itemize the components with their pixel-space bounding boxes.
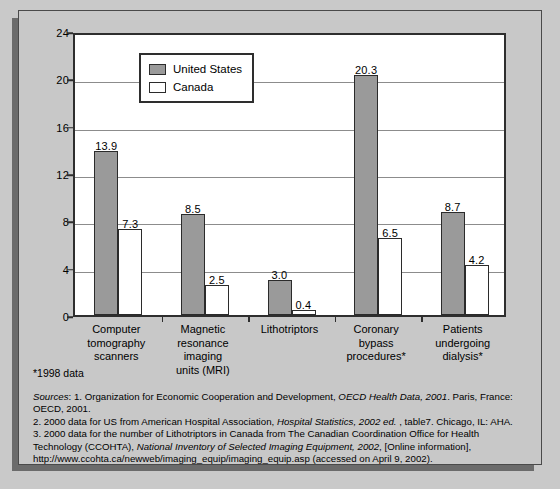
x-category-tick bbox=[421, 315, 423, 322]
source-3b: , table7. Chicago, IL: AHA. bbox=[396, 416, 512, 427]
bar-us bbox=[268, 280, 292, 316]
bar-value-label: 6.5 bbox=[382, 227, 398, 239]
source-5a: Technology (CCOHTA), bbox=[33, 441, 137, 452]
bar-chart: 04812162024 13.97.38.52.53.00.420.36.58.… bbox=[19, 11, 543, 341]
source-5-title: National Inventory of Selected Imaging E… bbox=[137, 441, 379, 452]
bar-value-label: 2.5 bbox=[209, 274, 225, 286]
source-1-title: OECD Health Data, 2001 bbox=[338, 391, 447, 402]
bar-us bbox=[94, 151, 118, 315]
bar-value-label: 7.3 bbox=[122, 218, 138, 230]
x-category-tick bbox=[335, 315, 337, 322]
notes-block: *1998 data Sources: 1. Organization for … bbox=[33, 367, 529, 465]
source-1b: . Paris, France: bbox=[447, 391, 513, 402]
legend-label: Canada bbox=[173, 81, 213, 93]
source-line-1: Sources: 1. Organization for Economic Co… bbox=[33, 391, 529, 403]
bar-canada bbox=[118, 229, 142, 315]
legend-label: United States bbox=[173, 63, 242, 75]
bar-us bbox=[181, 214, 205, 315]
bar-us bbox=[354, 75, 378, 315]
legend-item: United States bbox=[149, 60, 242, 78]
bar-value-label: 8.5 bbox=[185, 203, 201, 215]
bar-value-label: 3.0 bbox=[272, 269, 288, 281]
bar-canada bbox=[378, 238, 402, 315]
source-line-4: 3. 2000 data for the number of Lithotrip… bbox=[33, 428, 529, 440]
source-3a: 2. 2000 data for US from American Hospit… bbox=[33, 416, 277, 427]
bar-value-label: 20.3 bbox=[355, 64, 377, 76]
footnote: *1998 data bbox=[33, 367, 529, 379]
bar-us bbox=[441, 212, 465, 315]
source-line-3: 2. 2000 data for US from American Hospit… bbox=[33, 416, 529, 428]
legend-item: Canada bbox=[149, 78, 242, 96]
legend-swatch-us bbox=[149, 64, 166, 75]
sources-lead: Sources bbox=[33, 391, 69, 402]
bar-value-label: 13.9 bbox=[95, 140, 117, 152]
chart-legend: United StatesCanada bbox=[139, 53, 254, 103]
bar-canada bbox=[465, 265, 489, 315]
source-3-title: Hospital Statistics, 2002 ed. bbox=[277, 416, 397, 427]
source-5b: , [Online information], bbox=[379, 441, 471, 452]
y-axis-tickmarks bbox=[19, 33, 73, 317]
bar-value-label: 4.2 bbox=[469, 254, 485, 266]
plot-area: 13.97.38.52.53.00.420.36.58.74.2 bbox=[73, 33, 506, 317]
x-category-label: Patients undergoing dialysis* bbox=[409, 323, 516, 364]
bar-canada bbox=[205, 285, 229, 315]
x-category-tick bbox=[248, 315, 250, 322]
source-line-5: Technology (CCOHTA), National Inventory … bbox=[33, 441, 529, 453]
bar-value-label: 0.4 bbox=[296, 299, 312, 311]
source-1a: : 1. Organization for Economic Cooperati… bbox=[69, 391, 339, 402]
source-line-6-url: http://www.ccohta.ca/newweb/imaging_equi… bbox=[33, 453, 529, 465]
legend-swatch-canada bbox=[149, 82, 166, 93]
figure-panel: 04812162024 13.97.38.52.53.00.420.36.58.… bbox=[18, 10, 542, 465]
x-category-tick bbox=[162, 315, 164, 322]
source-line-2: OECD, 2001. bbox=[33, 403, 529, 415]
sources-block: Sources: 1. Organization for Economic Co… bbox=[33, 391, 529, 465]
gridline bbox=[75, 130, 504, 131]
gridline bbox=[75, 224, 504, 225]
gridline bbox=[75, 177, 504, 178]
bar-value-label: 8.7 bbox=[445, 201, 461, 213]
